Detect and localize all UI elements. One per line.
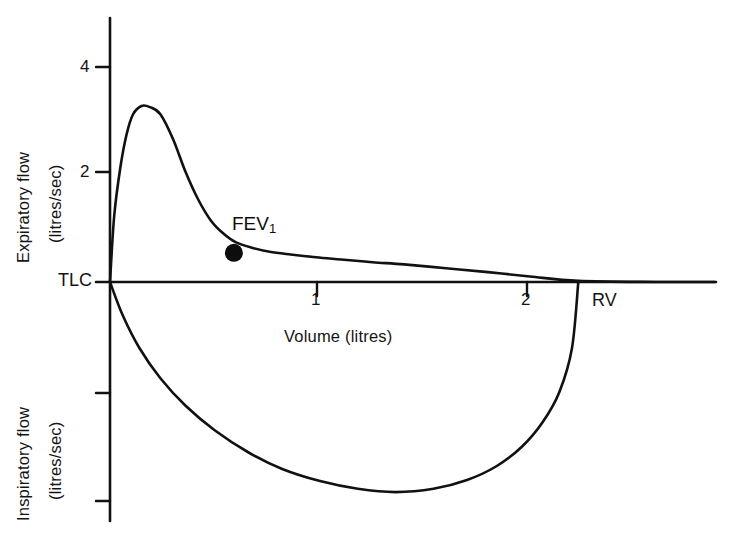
x-tick-label-2: 2 (521, 290, 530, 310)
axis-ticks (96, 67, 527, 501)
x-tick-label-1: 1 (311, 290, 320, 310)
fev1-label-text: FEV (232, 213, 269, 234)
axis-lines (96, 18, 716, 521)
inspiratory-flow-curve (110, 282, 578, 492)
x-axis-title: Volume (litres) (284, 327, 392, 346)
plot-canvas (0, 0, 741, 544)
fev1-label-subscript: 1 (269, 221, 276, 236)
fev1-label: FEV1 (232, 213, 276, 235)
fev1-marker-dot (225, 244, 243, 262)
upper-y-axis-title-line1: Expiratory flow (14, 152, 33, 263)
lower-y-axis-title-line2: (litres/sec) (46, 422, 65, 501)
flow-volume-loop-figure: Expiratory flow (litres/sec) Inspiratory… (0, 0, 741, 544)
lower-y-axis-title-line1: Inspiratory flow (14, 407, 33, 521)
y-tick-label-2: 2 (80, 162, 89, 182)
y-tick-label-4: 4 (80, 57, 89, 77)
upper-y-axis-title-line2: (litres/sec) (46, 165, 65, 244)
expiratory-flow-curve (110, 105, 715, 282)
tlc-label: TLC (58, 270, 92, 291)
rv-label: RV (592, 290, 617, 311)
